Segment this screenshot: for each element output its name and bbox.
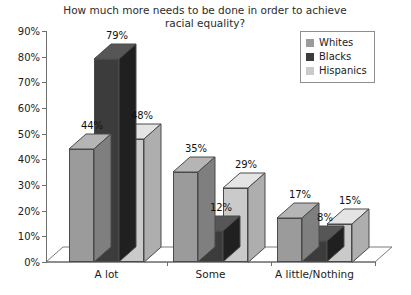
bar-value-label: 15% (339, 195, 361, 206)
y-axis-tick-label: 90% (0, 26, 40, 37)
bar-whites-2[interactable] (277, 218, 302, 262)
y-axis-tick-label: 40% (0, 154, 40, 165)
legend-item-hispanics[interactable]: Hispanics (306, 64, 367, 78)
y-axis-tick-mark (42, 31, 46, 32)
x-axis-tick-mark (271, 262, 272, 266)
bar-value-label: 79% (106, 30, 128, 41)
bar-value-label: 29% (235, 159, 257, 170)
legend-item-blacks[interactable]: Blacks (306, 50, 367, 64)
bar-front-face (277, 218, 302, 262)
y-axis-tick-label: 20% (0, 205, 40, 216)
bar-value-label: 17% (289, 189, 311, 200)
y-axis-tick-label: 30% (0, 180, 40, 191)
legend-swatch-icon (306, 39, 314, 47)
y-axis-tick-mark (42, 236, 46, 237)
bar-side-face (94, 134, 113, 264)
y-axis-tick-mark (42, 108, 46, 109)
x-axis-tick-mark (167, 262, 168, 266)
y-axis-tick-label: 60% (0, 103, 40, 114)
bar-value-label: 35% (185, 143, 207, 154)
x-axis-category-label: A lot (95, 268, 119, 280)
legend-label: Whites (319, 36, 353, 50)
y-axis-tick-mark (42, 185, 46, 186)
bar-value-label: 48% (131, 110, 153, 121)
y-axis-tick-mark (42, 159, 46, 160)
y-axis-tick-label: 0% (0, 257, 40, 268)
x-axis-tick-mark (375, 262, 376, 266)
bar-front-face (173, 172, 198, 262)
bar-whites-0[interactable] (69, 149, 94, 262)
legend-swatch-icon (306, 53, 314, 61)
y-axis-tick-label: 80% (0, 51, 40, 62)
bar-side-face (352, 209, 371, 265)
legend-label: Hispanics (319, 64, 367, 78)
bar-side-face (327, 226, 346, 264)
chart-container: How much more needs to be done in order … (0, 0, 411, 295)
bar-value-label: 44% (81, 120, 103, 131)
bar-value-label: 12% (210, 202, 232, 213)
x-axis-category-label: Some (196, 268, 226, 280)
x-axis-category-label: A little/Nothing (275, 268, 354, 280)
legend-swatch-icon (306, 67, 314, 75)
legend-item-whites[interactable]: Whites (306, 36, 367, 50)
y-axis-tick-label: 70% (0, 77, 40, 88)
y-axis-line (46, 31, 47, 263)
bar-side-face (144, 124, 163, 264)
y-axis-tick-label: 50% (0, 128, 40, 139)
y-axis-tick-label: 10% (0, 231, 40, 242)
bar-side-face (223, 216, 242, 264)
y-axis-tick-mark (42, 57, 46, 58)
y-axis-tick-mark (42, 134, 46, 135)
bar-side-face (248, 173, 267, 264)
y-axis-tick-mark (42, 262, 46, 263)
y-axis-tick-mark (42, 211, 46, 212)
bar-value-label: 8% (317, 212, 333, 223)
bar-side-face (119, 44, 138, 264)
legend-label: Blacks (319, 50, 351, 64)
bar-whites-1[interactable] (173, 172, 198, 262)
chart-legend: WhitesBlacksHispanics (300, 31, 375, 83)
y-axis-tick-mark (42, 82, 46, 83)
bar-front-face (69, 149, 94, 262)
